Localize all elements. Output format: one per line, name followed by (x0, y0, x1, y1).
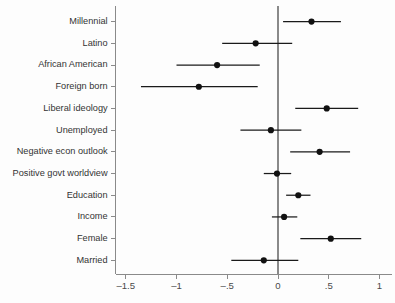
x-tick-label: 0 (275, 280, 280, 291)
point-estimate-marker (328, 236, 334, 242)
x-tick-label: 1 (377, 280, 382, 291)
point-estimate-marker (261, 257, 267, 263)
estimate-series-group (141, 19, 361, 264)
category-label: Foreign born (56, 81, 108, 91)
point-estimate-marker (317, 149, 323, 155)
category-label: Latino (83, 38, 108, 48)
point-estimate-marker (214, 62, 220, 68)
point-estimate-marker (295, 192, 301, 198)
category-label: Income (77, 211, 107, 221)
category-label: Married (76, 255, 107, 265)
category-label: Unemployed (56, 125, 108, 135)
axis-group (111, 6, 392, 279)
point-estimate-marker (281, 214, 287, 220)
category-label: Negative econ outlook (17, 146, 108, 156)
x-tick-label: .5 (325, 280, 333, 291)
category-label-group: MillennialLatinoAfrican AmericanForeign … (13, 16, 108, 265)
category-label: Liberal ideology (43, 103, 108, 113)
category-label: Millennial (69, 16, 107, 26)
point-estimate-marker (253, 40, 259, 46)
coefficient-plot-svg: MillennialLatinoAfrican AmericanForeign … (0, 0, 395, 303)
x-tick-label: –1.5 (116, 280, 135, 291)
point-estimate-marker (268, 127, 274, 133)
point-estimate-marker (324, 105, 330, 111)
category-label: Positive govt worldview (13, 168, 108, 178)
coefficient-plot-figure: MillennialLatinoAfrican AmericanForeign … (0, 0, 395, 303)
category-label: Education (67, 190, 108, 200)
x-tick-label-group: –1.5–1–.50.51 (116, 280, 382, 291)
x-tick-label: –1 (171, 280, 182, 291)
category-label: African American (38, 59, 107, 69)
point-estimate-marker (196, 84, 202, 90)
point-estimate-marker (274, 170, 280, 176)
category-label: Female (77, 233, 108, 243)
x-tick-label: –.5 (221, 280, 234, 291)
point-estimate-marker (308, 19, 314, 25)
